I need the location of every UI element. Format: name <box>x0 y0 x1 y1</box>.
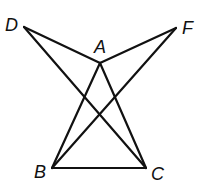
segment-DA <box>24 27 100 63</box>
label-B: B <box>34 162 46 180</box>
label-A: A <box>93 37 106 57</box>
label-D: D <box>5 15 18 35</box>
label-C: C <box>151 164 165 180</box>
segment-AC <box>100 63 146 168</box>
segment-AB <box>52 63 100 168</box>
geometry-diagram: D A F B C <box>0 0 203 180</box>
label-F: F <box>182 18 194 38</box>
segment-AF <box>100 28 176 63</box>
